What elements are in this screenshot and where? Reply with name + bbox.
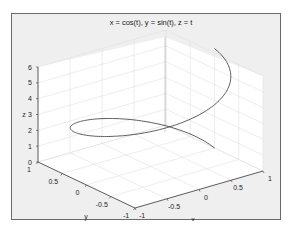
tick-label: -1 [123,212,129,219]
tick-label: 0 [76,189,80,196]
figure-window: 0123456-1-0.500.51-1-0.500.51 x = cos(t)… [11,13,281,220]
z-axis-label: z [22,111,26,118]
tick-label: 6 [28,64,32,71]
plot-3d: 0123456-1-0.500.51-1-0.500.51 x = cos(t)… [12,14,282,221]
tick-label: 3 [28,111,32,118]
tick-label: 0.5 [233,184,243,191]
tick-label: 0 [28,159,32,166]
tick-label: -0.5 [96,201,108,208]
tick-label: -1 [139,212,145,219]
x-axis-label: x [191,216,195,221]
tick-label: 4 [28,95,32,102]
tick-label: 0.5 [48,178,58,185]
tick-label: -0.5 [168,203,180,210]
tick-label: 1 [27,166,31,173]
tick-label: 5 [28,79,32,86]
tick-label: 0 [204,194,208,201]
chart-title: x = cos(t), y = sin(t), z = t [110,18,194,27]
tick-label: 1 [28,143,32,150]
tick-label: 2 [28,127,32,134]
tick-label: 1 [268,175,272,182]
y-axis-label: y [84,213,88,221]
